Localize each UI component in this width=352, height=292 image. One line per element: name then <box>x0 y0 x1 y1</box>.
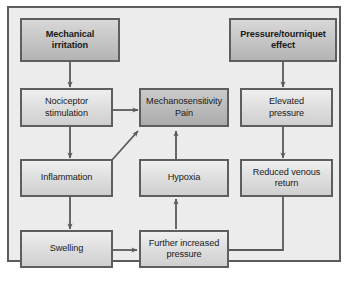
node-label: Reduced venous return <box>253 167 321 189</box>
node-reduced-venous-return[interactable]: Reduced venous return <box>240 159 333 197</box>
node-label: Nociceptor stimulation <box>45 96 88 118</box>
node-nociceptor-stimulation[interactable]: Nociceptor stimulation <box>20 88 113 127</box>
node-label: Elevated pressure <box>269 96 304 118</box>
node-label: Inflammation <box>41 172 92 183</box>
node-mechanosensitivity-pain[interactable]: Mechanosensitivity Pain <box>139 88 229 127</box>
node-label: Hypoxia <box>168 172 201 183</box>
node-swelling[interactable]: Swelling <box>20 230 113 268</box>
flowchart-diagram: Mechanical irritation Pressure/tournique… <box>0 0 352 292</box>
node-mechanical-irritation[interactable]: Mechanical irritation <box>20 18 120 62</box>
node-label: Mechanosensitivity Pain <box>146 96 222 118</box>
node-further-increased-pressure[interactable]: Further increased pressure <box>139 230 229 268</box>
node-label: Pressure/tourniquet effect <box>240 29 325 51</box>
node-inflammation[interactable]: Inflammation <box>20 159 113 197</box>
node-label: Mechanical irritation <box>46 29 95 51</box>
node-hypoxia[interactable]: Hypoxia <box>139 159 229 197</box>
node-label: Further increased pressure <box>149 238 219 260</box>
node-label: Swelling <box>50 243 83 254</box>
node-elevated-pressure[interactable]: Elevated pressure <box>240 88 333 127</box>
node-pressure-tourniquet-effect[interactable]: Pressure/tourniquet effect <box>229 18 337 62</box>
